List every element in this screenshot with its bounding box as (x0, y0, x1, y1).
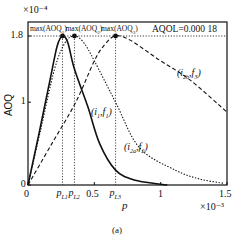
caption-text: (a) (112, 225, 122, 235)
x-tick-label: 0.5 (86, 189, 99, 199)
x-axis-label: p (122, 200, 128, 211)
x-tick-label-origin: 0 (24, 189, 29, 199)
marker-x-label-pL2: pL2 (68, 188, 79, 200)
series-label-2: (i2b,f3) (177, 68, 201, 80)
y-multiplier-text: ×10⁻⁴ (23, 4, 47, 15)
x-multiplier-label: ×10⁻³ (200, 202, 224, 212)
marker-x-label-pL1: pL1 (56, 188, 67, 200)
x-tick-label: 1 (158, 189, 163, 199)
aqol-text: AQOL=0.000 18 (152, 24, 217, 34)
x-multiplier-text: ×10⁻³ (200, 201, 224, 212)
marker-top-label-pL1: max(AOQ1) (30, 25, 67, 35)
xlabel-text: p (122, 199, 128, 211)
y-multiplier-label: ×10⁻⁴ (23, 5, 47, 15)
series-curve-1 (28, 36, 224, 185)
y-tick-label: 1 (21, 96, 26, 106)
y-tick-label: 1.8 (10, 30, 23, 40)
marker-x-label-pL3: pL3 (110, 188, 121, 200)
series-label-1: (i2a,f2) (124, 142, 148, 154)
y-tick-label: 0 (21, 179, 26, 189)
y-axis-label: AOQ (4, 94, 14, 116)
marker-top-label-pL3: max(AOQ3) (101, 25, 138, 35)
marker-top-label-pL2: max(AOQ2) (66, 25, 103, 35)
figure-caption: (a) (112, 226, 122, 235)
series-curves (28, 36, 227, 185)
ylabel-text: AOQ (3, 94, 14, 116)
series-label-0: (i1,f1) (91, 107, 112, 119)
x-tick-label: 1.5 (219, 189, 232, 199)
aqol-label: AQOL=0.000 18 (152, 25, 217, 35)
